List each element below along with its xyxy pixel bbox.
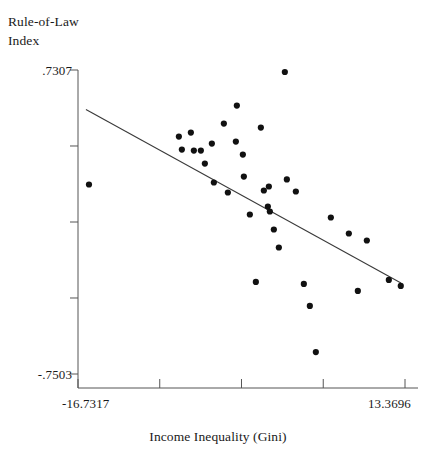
data-point [211,179,217,185]
data-point [398,283,404,289]
data-point [355,288,361,294]
data-point [293,188,299,194]
data-point [313,349,319,355]
data-point [386,277,392,283]
data-point [271,226,277,232]
data-point [301,281,307,287]
y-axis [70,70,78,388]
data-point [221,120,227,126]
x-axis [78,379,418,388]
data-point [261,187,267,193]
data-point [284,176,290,182]
data-point [209,140,215,146]
y-axis-title-line2: Index [8,33,39,48]
data-point [202,160,208,166]
data-point [276,244,282,250]
data-point [86,181,92,187]
scatter-plot-figure: Rule-of-LawIndex .7307 -.7503 -16.7317 1… [0,0,436,469]
data-points-group [86,69,404,355]
x-axis-title: Income Inequality (Gini) [0,429,436,445]
data-point [346,230,352,236]
data-point [240,151,246,157]
data-point [307,303,313,309]
data-point [225,189,231,195]
y-tick-marks [70,70,78,374]
x-tick-label-min: -16.7317 [62,396,109,412]
data-point [247,211,253,217]
data-point [266,183,272,189]
data-point [179,146,185,152]
regression-fit-line [86,110,401,283]
data-point [198,147,204,153]
data-point [233,138,239,144]
x-tick-label-max: 13.3696 [368,396,411,412]
data-point [241,173,247,179]
data-point [234,102,240,108]
data-point [191,147,197,153]
y-tick-label-min: -.7503 [0,367,72,383]
data-point [364,237,370,243]
data-point [282,69,288,75]
data-point [267,208,273,214]
data-point [328,214,334,220]
y-tick-label-max: .7307 [0,63,72,79]
data-point [176,133,182,139]
y-axis-title: Rule-of-LawIndex [8,12,79,50]
data-point [258,124,264,130]
x-tick-marks [78,379,405,388]
y-axis-title-line1: Rule-of-Law [8,14,79,29]
data-point [253,279,259,285]
data-point [188,129,194,135]
